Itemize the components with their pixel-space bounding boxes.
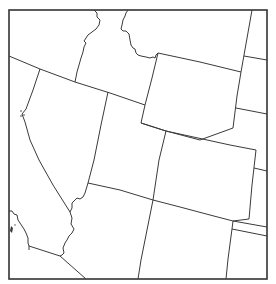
island (10, 226, 13, 233)
island (20, 110, 22, 112)
border-or-ca-nv-id-south (9, 56, 145, 105)
border-idaho-montana (121, 10, 158, 58)
border-california-nevada (22, 69, 70, 212)
border-ok-tx (232, 229, 267, 236)
border-ne-ks (254, 168, 267, 171)
border-wyoming-colorado (141, 123, 256, 150)
border-wyoming-montana (158, 53, 241, 72)
island (20, 115, 22, 117)
border-oregon-idaho (75, 10, 100, 82)
border-arizona-california (60, 183, 88, 256)
border-utah-colorado (153, 131, 166, 200)
state-outline-map (0, 0, 276, 284)
border-nd-sd (244, 56, 267, 60)
border-ok-panhandle (233, 221, 267, 227)
border-arizona-nm (138, 200, 153, 279)
island (14, 224, 15, 225)
border-mexico (29, 246, 86, 279)
island (23, 114, 25, 116)
border-nevada-utah (88, 92, 108, 183)
border-nm-ok (226, 221, 233, 279)
border-wyoming-south (141, 123, 233, 140)
border-four-corners (88, 183, 249, 221)
border-idaho-wyoming (141, 53, 158, 123)
border-sd-ne (236, 108, 267, 114)
border-colorado-east (249, 150, 256, 219)
